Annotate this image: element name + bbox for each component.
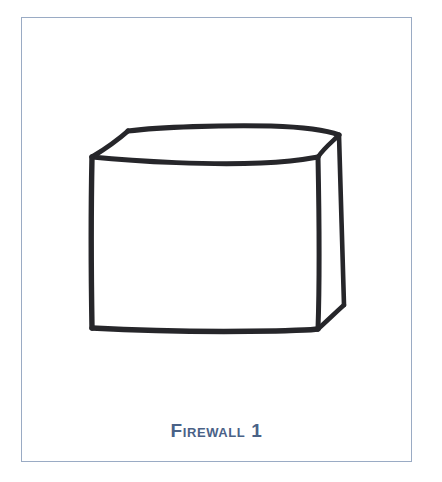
box-edge-front-left bbox=[91, 157, 92, 328]
box-edge-top-back bbox=[128, 126, 339, 135]
box-edge-right-bottom-slant bbox=[318, 305, 344, 329]
box-edge-top-left-slant bbox=[92, 131, 128, 157]
figure-caption-label: Firewall 1 bbox=[171, 421, 263, 440]
box-edge-front-right bbox=[318, 157, 319, 329]
box-edge-back-right bbox=[339, 135, 344, 305]
box-edge-front-bottom bbox=[92, 328, 318, 331]
box-edge-top-right-slant bbox=[318, 135, 339, 157]
firewall-box-sketch bbox=[21, 17, 412, 462]
figure-card: Firewall 1 bbox=[0, 0, 442, 482]
figure-caption-row: Firewall 1 bbox=[21, 410, 412, 450]
box-edge-top-front bbox=[92, 157, 318, 164]
diagram-drawing-area bbox=[21, 17, 412, 462]
